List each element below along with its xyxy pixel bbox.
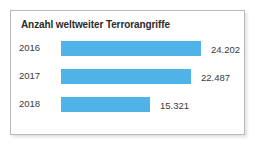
bar-track: 24.202 bbox=[61, 41, 238, 56]
screenshot-canvas: Anzahl weltweiter Terrorangriffe 2016 24… bbox=[0, 0, 257, 146]
bar-value-label: 15.321 bbox=[160, 100, 189, 111]
chart-card: Anzahl weltweiter Terrorangriffe 2016 24… bbox=[10, 10, 245, 135]
bar-category-label: 2017 bbox=[19, 70, 51, 81]
bar-value-label: 22.487 bbox=[201, 72, 230, 83]
bar-value-label: 24.202 bbox=[211, 44, 240, 55]
table-row: 2018 15.321 bbox=[11, 95, 244, 123]
bar-chart-plot-area: 2016 24.202 2017 22.487 2018 15.321 bbox=[11, 37, 244, 133]
bar-2017 bbox=[61, 69, 191, 84]
table-row: 2016 24.202 bbox=[11, 39, 244, 67]
bar-category-label: 2018 bbox=[19, 98, 51, 109]
bar-2018 bbox=[61, 97, 150, 112]
table-row: 2017 22.487 bbox=[11, 67, 244, 95]
bar-category-label: 2016 bbox=[19, 42, 51, 53]
bar-2016 bbox=[61, 41, 201, 56]
bar-track: 15.321 bbox=[61, 97, 238, 112]
page-title: Anzahl weltweiter Terrorangriffe bbox=[21, 19, 170, 30]
bar-track: 22.487 bbox=[61, 69, 238, 84]
